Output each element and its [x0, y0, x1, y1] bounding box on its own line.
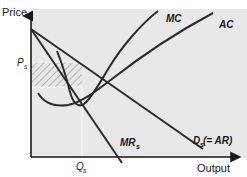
- price-marker-label: P: [17, 57, 24, 68]
- quantity-marker-subscript: s: [83, 167, 87, 174]
- marginal-revenue-label-subscript: s: [136, 143, 140, 150]
- y-axis-label: Price: [2, 6, 27, 18]
- average-cost-label: AC: [218, 19, 234, 30]
- x-axis-label: Output: [197, 162, 230, 174]
- economics-diagram: Price Output P s Q s MC AC MR s D s (= A…: [0, 0, 247, 177]
- demand-label-suffix: (= AR): [203, 135, 233, 146]
- marginal-cost-label: MC: [166, 13, 182, 24]
- marginal-revenue-label: MR: [120, 137, 136, 148]
- price-marker-subscript: s: [24, 63, 28, 70]
